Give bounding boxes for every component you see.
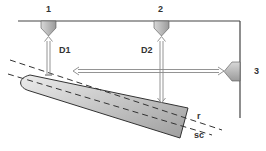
distance-arrow-d1: [45, 37, 53, 76]
sensor-1-icon: [41, 21, 56, 36]
sensor-3-label: 3: [254, 67, 259, 76]
sensor-1-label: 1: [46, 5, 51, 14]
measurement-diagram: [0, 0, 266, 151]
distance-d1-label: D1: [59, 46, 71, 55]
distance-arrow-horizontal: [73, 67, 224, 75]
sensor-3-icon: [224, 62, 240, 81]
line-sc-label: sc: [194, 131, 204, 140]
line-r-label: r: [197, 112, 201, 121]
sensor-2-label: 2: [158, 5, 163, 14]
sensor-2-icon: [154, 21, 169, 36]
distance-d2-label: D2: [141, 46, 153, 55]
